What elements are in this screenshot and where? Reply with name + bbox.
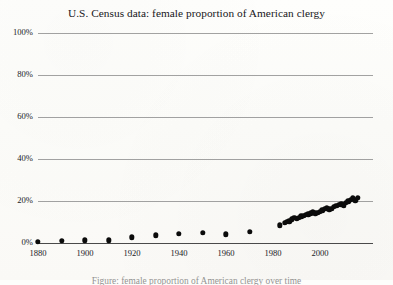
gridline-60	[38, 117, 373, 118]
y-axis-tick-label: 20%	[0, 196, 33, 205]
gridline-100	[38, 33, 373, 34]
y-axis-tick-label: 80%	[0, 70, 33, 79]
x-axis-tick-label: 1960	[204, 249, 248, 258]
x-axis-tick-label: 2000	[298, 249, 342, 258]
y-axis-tick-label: 0%	[0, 238, 33, 247]
x-axis-tick-label: 1940	[157, 249, 201, 258]
gridline-40	[38, 159, 373, 160]
data-point	[355, 195, 360, 200]
x-axis-tick-label: 1900	[63, 249, 107, 258]
data-point	[223, 231, 228, 236]
x-axis-tick-label: 1920	[110, 249, 154, 258]
gridline-80	[38, 75, 373, 76]
y-axis-tick-label: 40%	[0, 154, 33, 163]
x-axis-tick-label: 1880	[16, 249, 60, 258]
y-axis-tick-label: 100%	[0, 28, 33, 37]
data-point	[153, 233, 158, 238]
gridline-20	[38, 201, 373, 202]
data-point	[200, 230, 205, 235]
data-point	[247, 229, 252, 234]
x-axis-line	[38, 243, 373, 244]
caption-sliver: Figure: female proportion of American cl…	[0, 276, 393, 285]
data-point	[129, 235, 134, 240]
x-axis-tick-label: 1980	[251, 249, 295, 258]
y-axis-tick-label: 60%	[0, 112, 33, 121]
data-point	[176, 231, 181, 236]
